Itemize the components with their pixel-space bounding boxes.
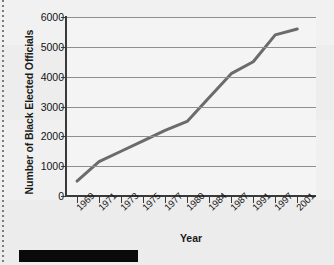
y-tick-mark: [61, 17, 66, 18]
y-tick-mark: [61, 77, 66, 78]
y-tick-label: 6000: [4, 11, 64, 23]
y-tick-label: 4000: [4, 71, 64, 83]
line-chart-figure: Number of Black Elected Officials Year 0…: [0, 0, 334, 265]
gridline: [66, 136, 316, 137]
gridline: [66, 166, 316, 167]
gridline: [66, 107, 316, 108]
x-axis-title: Year: [66, 232, 316, 244]
y-tick-label: 3000: [4, 101, 64, 113]
y-tick-mark: [61, 166, 66, 167]
gridline: [66, 77, 316, 78]
gridline: [66, 17, 316, 18]
y-tick-mark: [61, 136, 66, 137]
y-tick-mark: [61, 47, 66, 48]
gridline: [66, 47, 316, 48]
y-tick-mark: [61, 107, 66, 108]
y-tick-label: 1000: [4, 160, 64, 172]
y-tick-label: 5000: [4, 41, 64, 53]
y-tick-label: 0: [4, 190, 64, 202]
y-tick-mark: [61, 196, 66, 197]
plot-area: [66, 17, 316, 196]
y-tick-label: 2000: [4, 130, 64, 142]
caption-bar: [19, 250, 138, 262]
